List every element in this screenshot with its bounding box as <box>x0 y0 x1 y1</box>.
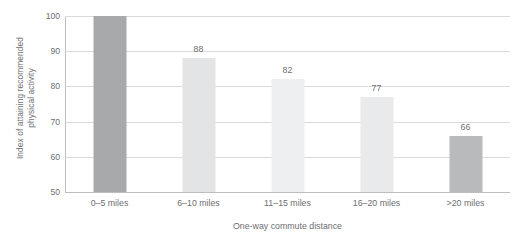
x-axis-title: One-way commute distance <box>65 221 510 231</box>
gridline <box>65 192 510 193</box>
y-axis-tick-label: 80 <box>30 81 60 91</box>
x-axis-tick-label: 11–15 miles <box>264 198 311 208</box>
x-axis-tick-label: >20 miles <box>447 198 485 208</box>
bar-chart: Index of attaining recommended physical … <box>0 0 527 238</box>
bar-group: 66 <box>421 16 510 192</box>
bar-value-label: 66 <box>461 122 471 132</box>
y-axis-tick-label: 60 <box>30 152 60 162</box>
bar-value-label: 77 <box>372 83 382 93</box>
bars: 88827766 <box>65 16 510 192</box>
bar[interactable] <box>182 58 215 192</box>
bar-value-label: 88 <box>194 44 204 54</box>
bar[interactable] <box>449 136 482 192</box>
y-axis-tick-label: 70 <box>30 117 60 127</box>
x-axis-tick-label: 6–10 miles <box>177 198 220 208</box>
bar[interactable] <box>93 16 126 192</box>
x-axis-tick-labels: 0–5 miles6–10 miles11–15 miles16–20 mile… <box>65 198 510 212</box>
plot-area: 88827766 <box>65 16 510 192</box>
bar-group: 82 <box>243 16 332 192</box>
y-axis-tick-label: 50 <box>30 187 60 197</box>
y-axis-tick-label: 100 <box>30 11 60 21</box>
bar-value-label: 82 <box>283 65 293 75</box>
y-axis-tick-label: 90 <box>30 46 60 56</box>
bar[interactable] <box>271 79 304 192</box>
x-axis-tick-label: 0–5 miles <box>91 198 129 208</box>
bar-group <box>65 16 154 192</box>
bar-group: 77 <box>332 16 421 192</box>
y-axis-tick-labels: 1009080706050 <box>30 0 60 238</box>
x-axis-tick-label: 16–20 miles <box>353 198 400 208</box>
bar-group: 88 <box>154 16 243 192</box>
bar[interactable] <box>360 97 393 192</box>
y-axis-title-line-1: Index of attaining recommended <box>15 37 26 159</box>
